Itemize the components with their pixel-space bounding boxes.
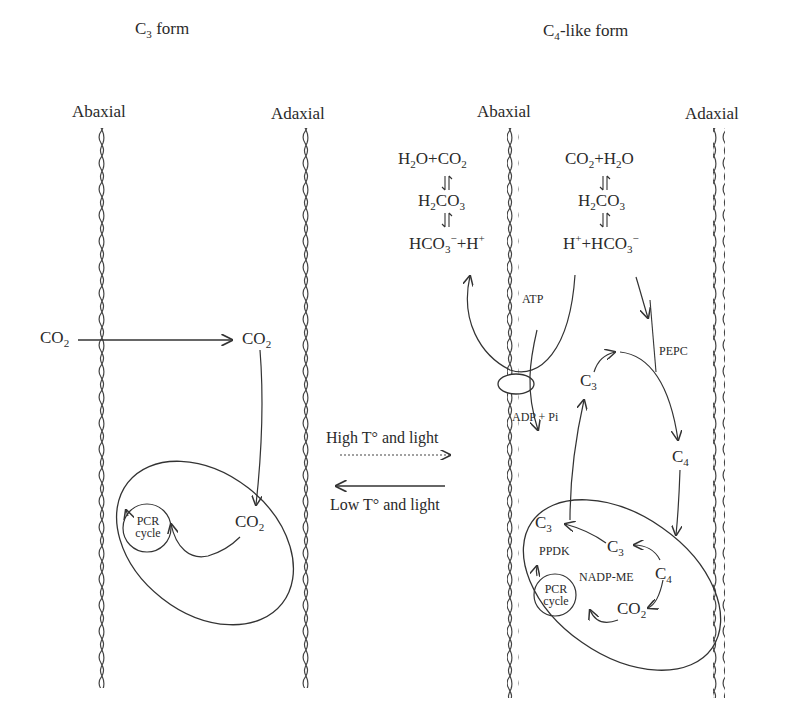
right-eq-row3: H++HCO3− [563,235,639,252]
co2-chloroplast-label: CO2 [235,513,264,530]
bicarbonate-to-pepc-arrow [636,277,648,318]
atp-label: ATP [522,293,543,305]
c3-cytosol-label: C3 [580,372,597,389]
co2-to-pcr-right-arrow [590,610,618,622]
left-eq-row2: H2CO3 [418,192,465,209]
c4-cytosol-label: C4 [672,448,689,465]
transporter-icon [498,374,534,394]
pcr-cycle-label-right: PCRcycle [541,583,571,607]
pcr-cycle-label-left: PCRcycle [134,515,162,539]
nadp-me-label: NADP-ME [579,571,634,583]
c3-to-pepc-arrow [594,352,615,372]
c4-import-arrow [676,470,680,535]
right-adaxial-label: Adaxial [685,105,739,122]
pepc-carboxylation-arrow [620,352,678,440]
chloroplast-co2-label: CO2 [617,600,646,617]
chloroplast-left [85,428,326,659]
right-panel-title: C4-like form [543,22,628,39]
left-panel-title: C3 form [135,20,189,37]
left-eq-row1: H2O+CO2 [398,150,467,167]
chloroplast-c3-mid-label: C3 [607,538,624,555]
right-eq-row2: H2CO3 [578,192,625,209]
pepc-label: PEPC [659,345,688,357]
co2-inside-label: CO2 [242,330,271,347]
co2-outside-label: CO2 [40,329,69,346]
right-abaxial-label: Abaxial [477,103,531,120]
low-temperature-light-label: Low T° and light [330,497,440,513]
cell-wall-left-adaxial [299,128,311,688]
left-eq-row3: HCO3−+H+ [409,235,485,252]
cell-wall-left-abaxial [98,128,110,688]
bicarbonate-transport-arrow [467,275,575,372]
ppdk-label: PPDK [539,545,570,557]
left-abaxial-label: Abaxial [72,103,126,120]
left-adaxial-label: Adaxial [271,105,325,122]
c4-decarboxylation-arrow [634,545,660,560]
c3-export-arrow [570,400,584,520]
chloroplast-c3-left-label: C3 [535,514,552,531]
c4-to-co2-arrow [648,580,663,608]
cell-wall-right-adaxial [713,128,725,698]
c3-regeneration-arrow [565,524,606,543]
adp-pi-label: ADP + Pi [512,411,558,423]
diagram-canvas: C3 form C4-like form Abaxial Adaxial Aba… [0,0,790,704]
co2-to-pcr-arrow [171,524,240,557]
high-temperature-light-label: High T° and light [326,430,438,446]
co2-to-chloroplast-arrow [256,350,262,505]
chloroplast-c4-label: C4 [655,565,672,582]
right-eq-row1: CO2+H2O [565,150,634,167]
